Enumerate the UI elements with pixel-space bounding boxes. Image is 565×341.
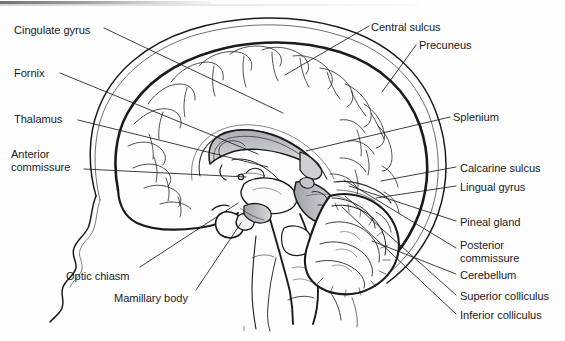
leader-anterior-commissure — [84, 169, 246, 177]
label-cerebellum: Cerebellum — [460, 269, 516, 282]
brain-diagram-figure: Cingulate gyrusFornixThalamusAnterior co… — [0, 0, 565, 341]
leader-splenium — [306, 117, 450, 151]
label-superior-colliculus: Superior colliculus — [460, 290, 549, 303]
label-central-sulcus: Central sulcus — [371, 21, 441, 34]
face-profile — [50, 196, 100, 322]
label-fornix: Fornix — [14, 67, 45, 80]
label-pineal-gland: Pineal gland — [460, 216, 520, 229]
leader-cingulate-gyrus — [104, 28, 283, 113]
label-mamillary-body: Mamillary body — [114, 292, 188, 305]
label-thalamus: Thalamus — [14, 113, 62, 126]
label-calcarine-sulcus: Calcarine sulcus — [460, 162, 541, 175]
label-lingual-gyrus: Lingual gyrus — [460, 181, 525, 194]
label-anterior-commissure: Anterior commissure — [11, 148, 70, 173]
label-inferior-colliculus: Inferior colliculus — [460, 309, 542, 322]
leader-fornix — [60, 73, 258, 154]
label-precuneus: Precuneus — [419, 39, 472, 52]
label-splenium: Splenium — [453, 111, 499, 124]
label-posterior-commissure: Posterior commissure — [460, 239, 519, 264]
label-optic-chiasm: Optic chiasm — [66, 270, 130, 283]
label-cingulate-gyrus: Cingulate gyrus — [14, 24, 90, 37]
leader-precuneus — [382, 45, 416, 92]
